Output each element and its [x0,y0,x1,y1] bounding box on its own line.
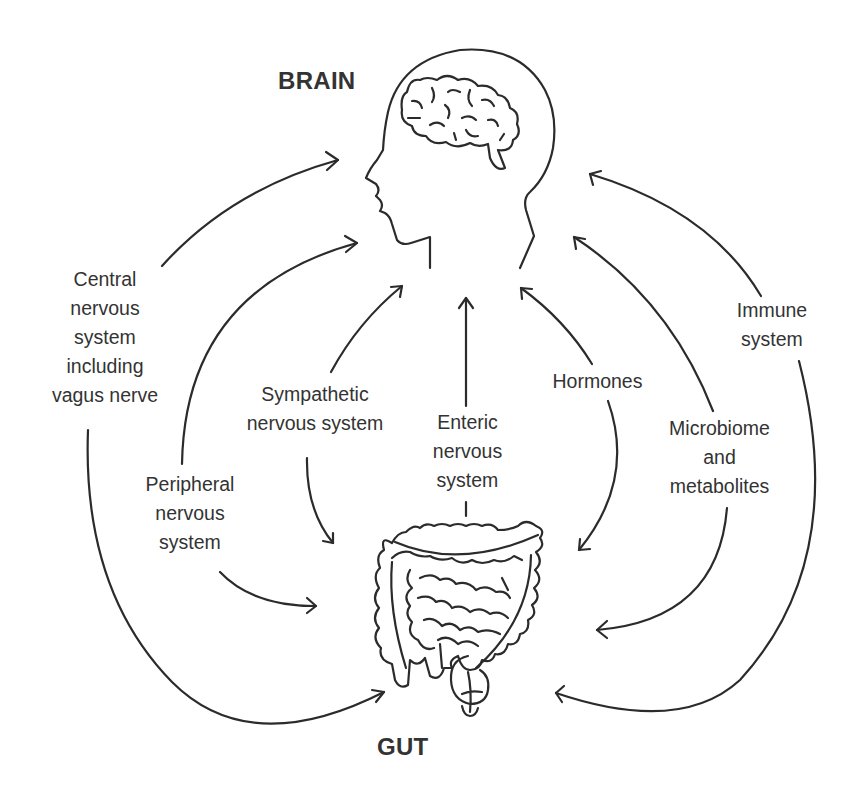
brain-title: BRAIN [278,67,356,95]
arrow-hormones [521,288,617,550]
intestines-icon [375,522,542,716]
label-enteric-nervous-system: Enteric nervous system [420,408,515,495]
gut-title: GUT [377,733,429,761]
brain-icon [402,76,519,169]
label-sympathetic-nervous-system: Sympathetic nervous system [230,380,400,438]
label-hormones: Hormones [540,367,655,396]
label-central-nervous-system: Central nervous system including vagus n… [40,265,170,410]
label-peripheral-nervous-system: Peripheral nervous system [130,470,250,557]
label-immune-system: Immune system [722,296,822,354]
label-microbiome-and-metabolites: Microbiome and metabolites [652,414,787,501]
head-icon [366,50,554,269]
